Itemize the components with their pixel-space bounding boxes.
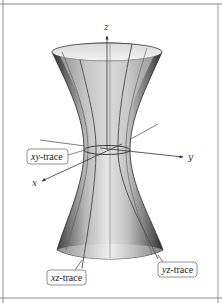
svg-text:xz-trace: xz-trace [50,272,83,283]
callout-yz-var: yz [161,264,170,275]
svg-text:xy-trace: xy-trace [30,151,63,162]
callout-xz-suffix: -trace [59,272,82,283]
x-axis-label: x [32,178,37,188]
z-axis-label: z [103,22,109,32]
callout-xy-trace: xy-trace [27,149,85,164]
y-axis-label: y [187,152,194,162]
callout-xy-var: xy [30,151,40,162]
hyperboloid-figure: z y x xy-trace xz-trace yz-trace [0,0,222,303]
callout-xy-suffix: -trace [40,151,63,162]
callout-yz-trace: yz-trace [158,255,197,277]
callout-xz-var: xz [50,272,59,283]
svg-text:yz-trace: yz-trace [161,264,194,275]
callout-yz-suffix: -trace [170,264,193,275]
callout-xz-trace: xz-trace [47,260,86,285]
